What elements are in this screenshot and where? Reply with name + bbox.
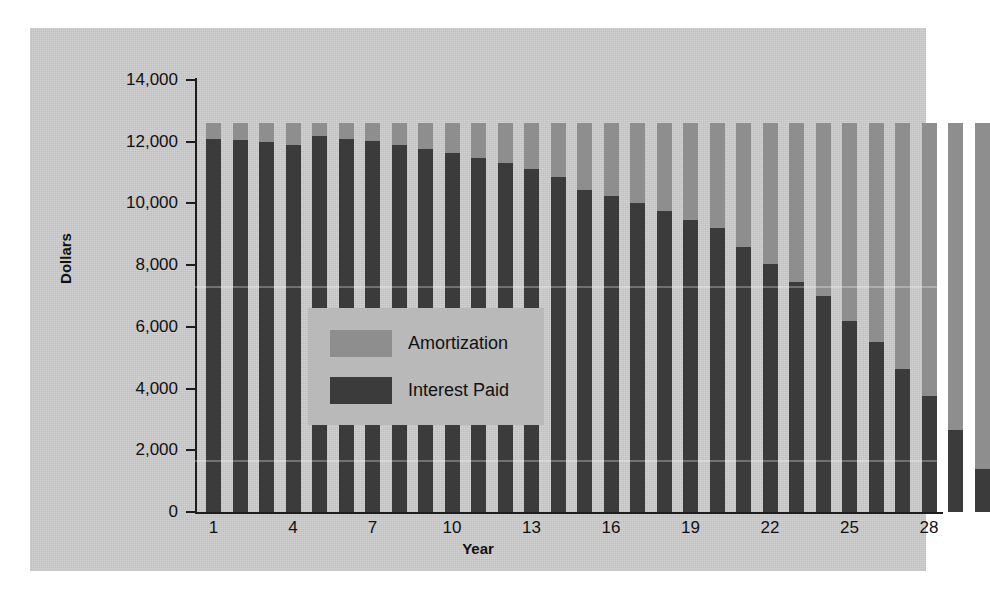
- plot-area: [195, 80, 940, 512]
- bar-year-24: [816, 123, 831, 512]
- bar-year-23: [789, 123, 804, 512]
- bar-segment-interest-paid: [286, 145, 301, 512]
- bar-segment-amortization: [683, 123, 698, 220]
- bar-year-15: [577, 123, 592, 512]
- bar-year-16: [604, 123, 619, 512]
- bar-year-21: [736, 123, 751, 512]
- bar-segment-interest-paid: [259, 142, 274, 512]
- y-tick-label-wrap: 2,000: [68, 450, 178, 470]
- x-axis-title: Year: [30, 540, 926, 557]
- bar-segment-interest-paid: [710, 228, 725, 512]
- bar-segment-amortization: [392, 123, 407, 145]
- y-tick-mark: [186, 79, 195, 81]
- bar-year-20: [710, 123, 725, 512]
- bar-segment-interest-paid: [869, 342, 884, 512]
- x-tick-label: 13: [522, 518, 541, 538]
- bar-segment-amortization: [816, 123, 831, 296]
- bar-segment-amortization: [657, 123, 672, 211]
- bar-year-17: [630, 123, 645, 512]
- bar-segment-amortization: [445, 123, 460, 153]
- y-tick-label: 6,000: [68, 317, 178, 337]
- y-tick-mark: [186, 388, 195, 390]
- bar-segment-interest-paid: [816, 296, 831, 512]
- y-tick-mark: [186, 141, 195, 143]
- bar-segment-amortization: [763, 123, 778, 263]
- y-tick-label-wrap: 10,000: [68, 203, 178, 223]
- bar-segment-amortization: [524, 123, 539, 169]
- bar-segment-amortization: [551, 123, 566, 176]
- bar-segment-amortization: [842, 123, 857, 320]
- bar-segment-interest-paid: [948, 430, 963, 512]
- bar-segment-amortization: [710, 123, 725, 228]
- bar-segment-amortization: [365, 123, 380, 141]
- bar-segment-amortization: [286, 123, 301, 145]
- bar-segment-interest-paid: [630, 203, 645, 512]
- bar-segment-interest-paid: [577, 190, 592, 512]
- bar-year-3: [259, 123, 274, 512]
- bar-year-22: [763, 123, 778, 512]
- bar-segment-interest-paid: [763, 264, 778, 512]
- x-tick-label: 22: [761, 518, 780, 538]
- y-tick-label: 12,000: [68, 132, 178, 152]
- bar-segment-interest-paid: [975, 469, 990, 512]
- bar-year-30: [975, 123, 990, 512]
- bar-segment-amortization: [789, 123, 804, 282]
- bar-segment-interest-paid: [736, 247, 751, 512]
- bar-segment-interest-paid: [551, 177, 566, 512]
- bar-segment-amortization: [206, 123, 221, 138]
- legend-item-interest-paid: Interest Paid: [330, 377, 509, 404]
- y-tick-label: 0: [68, 502, 178, 522]
- bar-segment-amortization: [498, 123, 513, 163]
- legend-label-interest-paid: Interest Paid: [408, 380, 509, 401]
- legend-item-amortization: Amortization: [330, 330, 508, 357]
- bar-segment-amortization: [312, 123, 327, 136]
- bar-segment-amortization: [975, 123, 990, 469]
- y-tick-label: 14,000: [68, 70, 178, 90]
- bar-segment-amortization: [604, 123, 619, 196]
- bar-segment-interest-paid: [842, 321, 857, 512]
- bar-year-25: [842, 123, 857, 512]
- bar-segment-amortization: [948, 123, 963, 430]
- bar-segment-amortization: [233, 123, 248, 140]
- bar-segment-interest-paid: [922, 396, 937, 512]
- bar-segment-interest-paid: [233, 140, 248, 512]
- x-tick-label: 19: [681, 518, 700, 538]
- bar-year-29: [948, 123, 963, 512]
- y-tick-mark: [186, 511, 195, 513]
- bar-segment-amortization: [895, 123, 910, 368]
- x-tick-label: 25: [840, 518, 859, 538]
- y-tick-mark: [186, 264, 195, 266]
- bar-year-18: [657, 123, 672, 512]
- bar-year-1: [206, 123, 221, 512]
- bar-segment-interest-paid: [789, 282, 804, 512]
- y-tick-label-wrap: 14,000: [68, 80, 178, 100]
- y-tick-label-wrap: 0: [68, 512, 178, 532]
- legend-label-amortization: Amortization: [408, 333, 508, 354]
- bar-year-4: [286, 123, 301, 512]
- y-tick-label-wrap: 12,000: [68, 142, 178, 162]
- bar-segment-amortization: [736, 123, 751, 246]
- bar-segment-amortization: [922, 123, 937, 396]
- x-tick-label: 1: [209, 518, 218, 538]
- chart-plate: Dollars 02,0004,0006,0008,00010,00012,00…: [30, 28, 926, 571]
- bar-year-28: [922, 123, 937, 512]
- x-tick-label: 10: [443, 518, 462, 538]
- x-tick-label: 28: [920, 518, 939, 538]
- x-tick-label: 16: [602, 518, 621, 538]
- bar-segment-interest-paid: [895, 369, 910, 512]
- y-tick-mark: [186, 449, 195, 451]
- y-tick-mark: [186, 326, 195, 328]
- bar-segment-interest-paid: [657, 211, 672, 512]
- bar-segment-interest-paid: [683, 220, 698, 512]
- legend-swatch-amortization: [330, 330, 392, 357]
- legend: Amortization Interest Paid: [308, 308, 544, 425]
- legend-swatch-interest-paid: [330, 377, 392, 404]
- y-tick-label: 2,000: [68, 440, 178, 460]
- bar-year-19: [683, 123, 698, 512]
- bar-segment-amortization: [471, 123, 486, 158]
- bar-year-26: [869, 123, 884, 512]
- y-tick-mark: [186, 202, 195, 204]
- y-tick-label-wrap: 6,000: [68, 327, 178, 347]
- bar-segment-interest-paid: [604, 196, 619, 512]
